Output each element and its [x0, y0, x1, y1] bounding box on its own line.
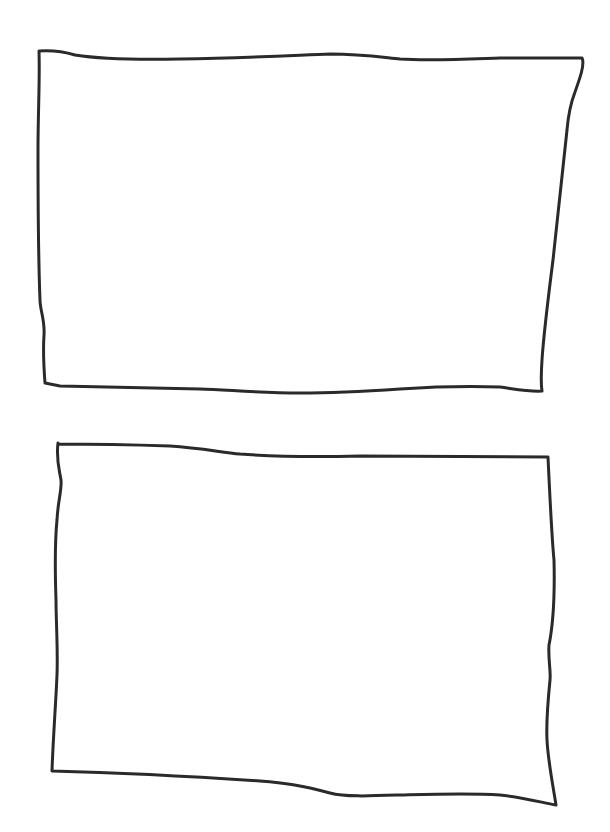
sketch-rectangle-top [38, 51, 583, 393]
drawing-canvas [0, 0, 610, 832]
sketch-rectangle-bottom [52, 443, 556, 805]
